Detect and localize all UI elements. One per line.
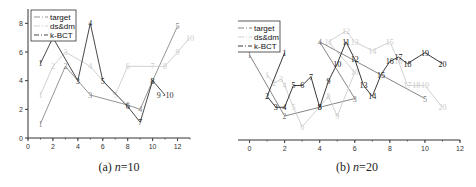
x-tick-label: 0 (248, 145, 252, 152)
chart-panel-b: 0246810122345671283451234568910111213141… (238, 0, 476, 187)
point-label: 1 (265, 71, 269, 80)
point-label: 7 (309, 73, 313, 82)
x-tick-label: 8 (388, 145, 392, 152)
point-label: 3 (353, 95, 357, 104)
point-label: 6 (126, 62, 130, 71)
caption-b-suffix: =20 (359, 160, 378, 174)
legend-entry: k-BCT (50, 31, 73, 40)
point-label: 2 (272, 79, 276, 88)
point-label: 1 (283, 49, 287, 58)
x-tick-label: 10 (149, 143, 157, 150)
point-label: 4 (318, 38, 322, 47)
legend: targetds&dmk-BCT (31, 10, 76, 41)
point-label: 5 (291, 103, 295, 112)
point-label: 9 (335, 112, 339, 121)
y-tick-label: 8 (19, 20, 23, 27)
point-label: 11 (342, 38, 350, 47)
point-label: 9 -10 (157, 91, 174, 100)
point-label: 13 (360, 81, 368, 90)
legend-entry: target (50, 13, 71, 22)
point-label: 5 (176, 22, 180, 31)
point-label: 16 (386, 57, 394, 66)
point-label: 19 (421, 81, 429, 90)
point-label: 8 (326, 92, 330, 101)
x-tick-label: 12 (456, 145, 464, 152)
legend-entry: target (254, 24, 275, 33)
point-label: 8 (163, 62, 167, 71)
y-tick-label: 4 (19, 77, 23, 84)
y-tick-label: 0 (19, 135, 23, 142)
x-tick-label: 8 (126, 143, 130, 150)
caption-a: (a) n=10 (0, 160, 238, 175)
x-tick-label: 12 (174, 143, 182, 150)
point-label: 4 (88, 19, 92, 28)
x-tick-label: 10 (421, 145, 429, 152)
point-label: 12 (342, 27, 350, 36)
point-label: 5 (423, 95, 427, 104)
point-label: 1 (38, 120, 42, 129)
point-label: 3 (88, 91, 92, 100)
point-label: 8 (318, 103, 322, 112)
point-label: 14 (368, 47, 376, 56)
line-chart-n10: 0246810120246812364851234567891012345678… (0, 0, 238, 160)
x-tick-label: 2 (51, 143, 55, 150)
caption-b: (b) n=20 (238, 160, 476, 175)
point-label: 10 (333, 60, 341, 69)
point-label: 4 (138, 105, 142, 114)
x-tick-label: 4 (318, 145, 322, 152)
point-label: 5 (291, 81, 295, 90)
point-label: 10 (186, 34, 194, 43)
point-label: 20 (438, 60, 446, 69)
point-label: 6 (126, 102, 130, 111)
point-label: 2 (51, 62, 55, 71)
point-label: 5 (101, 77, 105, 86)
legend: targetds&dmk-BCT (238, 21, 280, 52)
point-label: 10 (351, 68, 359, 77)
point-label: 3 (63, 48, 67, 57)
legend-entry: ds&dm (254, 33, 279, 42)
point-label: 17 (403, 81, 411, 90)
point-label: 6 (300, 81, 304, 90)
x-tick-label: 0 (26, 143, 30, 150)
point-label: 12 (351, 55, 359, 64)
point-label: 2 (63, 62, 67, 71)
point-label: 17 (395, 53, 403, 62)
caption-a-prefix: (a) (98, 160, 114, 174)
point-label: 4 (283, 103, 287, 112)
point-label: 8 (151, 77, 155, 86)
point-label: 15 (377, 71, 385, 80)
point-label: 4 (283, 81, 287, 90)
point-label: 2 (265, 92, 269, 101)
x-tick-label: 2 (283, 145, 287, 152)
point-label: 4 (88, 62, 92, 71)
point-label: 7 (138, 118, 142, 127)
point-label: 19 (421, 49, 429, 58)
point-label: 2 (283, 112, 287, 121)
point-label: 18 (403, 60, 411, 69)
point-label: 3 (274, 103, 278, 112)
point-label: 6 (300, 123, 304, 132)
caption-b-prefix: (b) (336, 160, 353, 174)
point-label: 1 (38, 91, 42, 100)
x-tick-label: 6 (101, 143, 105, 150)
point-label: 7 (151, 62, 155, 71)
chart-panel-a: 0246810120246812364851234567891012345678… (0, 0, 238, 187)
point-label: 9 (326, 77, 330, 86)
point-label: 9 (176, 48, 180, 57)
point-label: 11 (325, 38, 333, 47)
series-ds-dm: 123456891011121314151617181920 (265, 27, 446, 132)
point-label: 14 (368, 92, 376, 101)
point-label: 18 (412, 81, 420, 90)
x-tick-label: 4 (76, 143, 80, 150)
legend-entry: ds&dm (50, 22, 75, 31)
caption-a-suffix: =10 (121, 160, 140, 174)
point-label: 3 (76, 77, 80, 86)
y-tick-label: 6 (19, 49, 23, 56)
point-label: 20 (438, 103, 446, 112)
point-label: 13 (351, 38, 359, 47)
y-tick-label: 2 (19, 106, 23, 113)
x-tick-label: 6 (353, 145, 357, 152)
point-label: 15 (386, 38, 394, 47)
point-label: 1 (38, 59, 42, 68)
line-chart-n20: 0246810122345671283451234568910111213141… (238, 0, 476, 160)
